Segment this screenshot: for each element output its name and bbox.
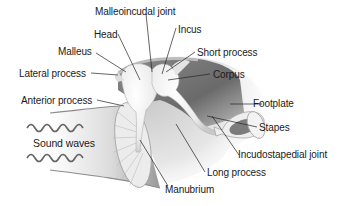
- label-incus: Incus: [178, 24, 201, 35]
- label-short-process: Short process: [197, 47, 257, 58]
- label-sound-waves: Sound waves: [33, 138, 95, 149]
- label-incudostapedial-joint: Incudostapedial joint: [238, 149, 327, 160]
- label-anterior-process: Anterior process: [21, 95, 92, 106]
- label-head: Head: [94, 29, 118, 40]
- label-footplate: Footplate: [253, 98, 294, 109]
- label-corpus: Corpus: [213, 69, 245, 80]
- label-lateral-process: Lateral process: [19, 68, 86, 79]
- label-stapes: Stapes: [259, 122, 290, 133]
- ossicles-diagram: Malleoincudal joint Head Malleus Lateral…: [0, 0, 351, 206]
- label-malleus: Malleus: [58, 46, 92, 57]
- label-long-process: Long process: [207, 167, 266, 178]
- label-manubrium: Manubrium: [165, 184, 214, 195]
- label-malleoincudal-joint: Malleoincudal joint: [95, 6, 175, 17]
